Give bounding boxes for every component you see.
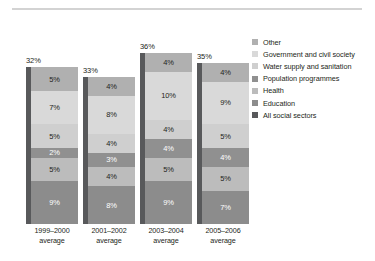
legend-swatch-icon bbox=[252, 100, 258, 106]
bar-segment[interactable]: 4% bbox=[83, 77, 135, 96]
legend-item[interactable]: Other bbox=[252, 36, 372, 48]
bar-segment[interactable]: 4% bbox=[83, 167, 135, 186]
bar-segment-label: 4% bbox=[220, 68, 231, 77]
bar-segment-label: 3% bbox=[106, 155, 117, 164]
bar-segment[interactable]: 4% bbox=[140, 139, 192, 158]
chart-legend: OtherGovernment and civil societyWater s… bbox=[252, 36, 372, 121]
bar-segment-label: 5% bbox=[220, 132, 231, 141]
legend-swatch-icon bbox=[252, 39, 258, 45]
legend-item-label: Other bbox=[263, 38, 281, 47]
bar-segment-label: 2% bbox=[49, 148, 60, 157]
bar-segment[interactable]: 2% bbox=[26, 148, 78, 158]
bar-segment-label: 4% bbox=[106, 172, 117, 181]
bar-stack[interactable]: 4%9%5%4%5%7% bbox=[197, 63, 249, 225]
bar-segment-label: 5% bbox=[49, 132, 60, 141]
bar-stack[interactable]: 5%7%5%2%5%9% bbox=[26, 67, 78, 224]
x-axis-labels: 1999–2000average2001–2002average2003–200… bbox=[0, 226, 243, 256]
x-axis-tick-label: 2001–2002average bbox=[78, 226, 140, 245]
all-social-sectors-spine bbox=[83, 77, 88, 224]
all-social-sectors-spine bbox=[26, 67, 31, 224]
bar-segment-label: 4% bbox=[163, 125, 174, 134]
bar-segment[interactable]: 4% bbox=[140, 120, 192, 139]
bar-group: 32%5%7%5%2%5%9% bbox=[26, 67, 78, 224]
bar-segment-label: 4% bbox=[163, 144, 174, 153]
x-axis-tick-label: 2003–2004average bbox=[135, 226, 197, 245]
legend-swatch-icon bbox=[252, 63, 258, 69]
bar-segment[interactable]: 4% bbox=[197, 63, 249, 82]
bar-segment[interactable]: 9% bbox=[140, 181, 192, 224]
bar-segment-label: 5% bbox=[49, 75, 60, 84]
legend-item-label: Water supply and sanitation bbox=[263, 62, 351, 71]
legend-swatch-icon bbox=[252, 88, 258, 94]
stacked-bar-chart: 32%5%7%5%2%5%9%33%4%8%4%3%4%8%36%4%10%4%… bbox=[0, 12, 243, 252]
legend-item-label: Government and civil society bbox=[263, 50, 355, 59]
x-axis-tick-label: 2005–2006average bbox=[192, 226, 254, 245]
bar-total-label: 33% bbox=[83, 66, 98, 75]
x-axis-tick-label: 1999–2000average bbox=[21, 226, 83, 245]
bar-group: 33%4%8%4%3%4%8% bbox=[83, 77, 135, 224]
bar-stack[interactable]: 4%10%4%4%5%9% bbox=[140, 53, 192, 224]
bar-segment-label: 5% bbox=[49, 165, 60, 174]
bar-segment[interactable]: 5% bbox=[26, 67, 78, 91]
bar-total-label: 35% bbox=[197, 52, 212, 61]
all-social-sectors-spine bbox=[197, 63, 202, 225]
bar-group: 35%4%9%5%4%5%7% bbox=[197, 63, 249, 225]
bar-segment-label: 7% bbox=[49, 103, 60, 112]
bar-segment-label: 4% bbox=[220, 153, 231, 162]
legend-item-label: Education bbox=[263, 99, 295, 108]
legend-item[interactable]: Government and civil society bbox=[252, 48, 372, 60]
bar-segment-label: 4% bbox=[163, 58, 174, 67]
legend-swatch-icon bbox=[252, 76, 258, 82]
legend-item-label: Health bbox=[263, 86, 284, 95]
legend-item[interactable]: Health bbox=[252, 85, 372, 97]
bar-segment-label: 8% bbox=[106, 201, 117, 210]
bar-segment-label: 7% bbox=[220, 203, 231, 212]
legend-item[interactable]: Education bbox=[252, 97, 372, 109]
bar-total-label: 32% bbox=[26, 56, 41, 65]
bar-segment-label: 5% bbox=[163, 165, 174, 174]
bar-segment-label: 4% bbox=[106, 82, 117, 91]
bar-segment-label: 4% bbox=[106, 139, 117, 148]
bar-total-label: 36% bbox=[140, 42, 155, 51]
bar-segment-label: 5% bbox=[220, 174, 231, 183]
legend-swatch-icon bbox=[252, 112, 258, 118]
bar-segment-label: 9% bbox=[220, 98, 231, 107]
bar-segment-label: 10% bbox=[161, 91, 176, 100]
chart-plot-area: 32%5%7%5%2%5%9%33%4%8%4%3%4%8%36%4%10%4%… bbox=[0, 12, 243, 224]
bar-segment[interactable]: 5% bbox=[26, 158, 78, 182]
bar-segment[interactable]: 5% bbox=[197, 167, 249, 191]
bar-segment[interactable]: 4% bbox=[83, 134, 135, 153]
bar-segment[interactable]: 10% bbox=[140, 72, 192, 120]
bar-segment[interactable]: 4% bbox=[140, 53, 192, 72]
bar-segment[interactable]: 7% bbox=[197, 191, 249, 224]
bar-segment-label: 8% bbox=[106, 110, 117, 119]
header-divider bbox=[12, 8, 362, 10]
legend-item[interactable]: All social sectors bbox=[252, 109, 372, 121]
bar-stack[interactable]: 4%8%4%3%4%8% bbox=[83, 77, 135, 224]
bar-segment[interactable]: 9% bbox=[197, 82, 249, 125]
bar-segment[interactable]: 3% bbox=[83, 153, 135, 167]
legend-item[interactable]: Water supply and sanitation bbox=[252, 60, 372, 72]
bar-group: 36%4%10%4%4%5%9% bbox=[140, 53, 192, 224]
legend-item-label: All social sectors bbox=[263, 111, 316, 120]
legend-swatch-icon bbox=[252, 51, 258, 57]
bar-segment[interactable]: 9% bbox=[26, 181, 78, 224]
bar-segment-label: 9% bbox=[163, 198, 174, 207]
bar-segment[interactable]: 4% bbox=[197, 148, 249, 167]
bar-segment[interactable]: 5% bbox=[140, 158, 192, 182]
legend-item[interactable]: Population programmes bbox=[252, 73, 372, 85]
all-social-sectors-spine bbox=[140, 53, 145, 224]
bar-segment[interactable]: 5% bbox=[26, 124, 78, 148]
bar-segment[interactable]: 8% bbox=[83, 186, 135, 224]
legend-item-label: Population programmes bbox=[263, 74, 339, 83]
bar-segment[interactable]: 8% bbox=[83, 96, 135, 134]
bar-segment-label: 9% bbox=[49, 198, 60, 207]
bar-segment[interactable]: 7% bbox=[26, 91, 78, 124]
bar-segment[interactable]: 5% bbox=[197, 124, 249, 148]
